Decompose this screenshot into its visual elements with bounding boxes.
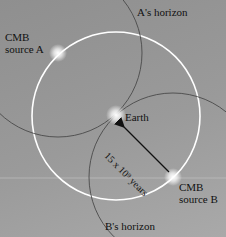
distance-arrow [124,127,169,172]
a-horizon-label: A's horizon [137,6,188,18]
horizon-diagram: CMB source A A's horizon Earth CMB sourc… [0,0,226,237]
earth-glow-icon [106,105,126,125]
source-b-label: CMB source B [179,181,218,205]
source-a-label: CMB source A [5,31,44,55]
source-a-glow-icon [49,44,67,62]
earth-label: Earth [125,111,149,123]
b-horizon-label: B's horizon [105,220,155,232]
